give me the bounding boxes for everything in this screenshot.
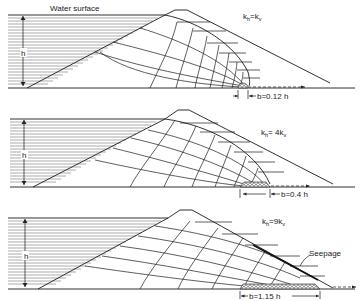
- height-label: h: [24, 252, 28, 261]
- equipotential-line: [192, 135, 215, 187]
- reservoir-water: [8, 221, 161, 284]
- equipotential-line: [130, 120, 175, 187]
- flow-line: [95, 160, 244, 186]
- equipotential-line: [140, 221, 190, 289]
- equipotential-line: [243, 250, 266, 289]
- arrow-down-icon: [23, 283, 28, 287]
- panel-1: Water surface h: [8, 4, 355, 101]
- flow-line: [155, 226, 300, 270]
- anisotropy-label: kh=kv: [243, 12, 262, 22]
- equipotential-line: [195, 36, 207, 88]
- phreatic-line: [165, 15, 250, 86]
- reservoir-water: [8, 18, 158, 84]
- dam-outline: [38, 210, 333, 289]
- drain-width-label: b=1.15 h: [249, 292, 280, 301]
- arrow-down-icon: [22, 181, 27, 185]
- anisotropy-label: kh=9kv: [262, 217, 285, 227]
- toe-drain: [238, 83, 248, 88]
- panel-2: h b=0.4 h kh= 4kv: [10, 110, 355, 199]
- flow-line: [148, 130, 265, 185]
- drain-width-label: b=0.12 h: [257, 92, 288, 101]
- water-surface-label: Water surface: [50, 4, 100, 13]
- drain-width-label: b=0.4 h: [281, 190, 308, 199]
- flow-line: [131, 138, 258, 186]
- dam-outline: [33, 110, 333, 187]
- flow-line: [140, 28, 245, 86]
- reservoir-water: [10, 122, 156, 182]
- height-label: h: [21, 49, 25, 58]
- height-label: h: [22, 151, 26, 160]
- anisotropy-label: kh= 4kv: [261, 128, 286, 138]
- panel-3: h Seepage b=1.15 h kh=9kv: [8, 210, 356, 301]
- equipotential-line: [176, 28, 193, 88]
- seepage-label: Seepage: [309, 249, 342, 258]
- toe-drain: [240, 284, 320, 289]
- flow-net-figure: Water surface h: [0, 0, 360, 301]
- toe-drain: [240, 182, 270, 187]
- equipotential-line: [215, 145, 231, 187]
